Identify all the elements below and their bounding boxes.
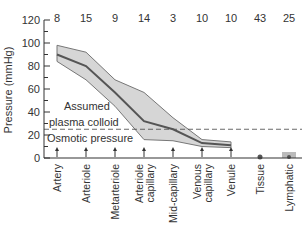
y-tick-label: 120 <box>22 14 40 26</box>
top-count-labels: 815914310104325 <box>54 12 295 24</box>
y-tick-label: 0 <box>34 152 40 164</box>
up-arrow-icon <box>55 147 59 151</box>
up-arrow-icon <box>200 147 204 151</box>
top-count-label: 9 <box>112 12 118 24</box>
svg-text:Mid-capillary: Mid-capillary <box>167 163 179 223</box>
annotation-osmotic-pressure: Osmotic pressure <box>47 132 133 144</box>
category-labels: ArteryArterioleMetarterioleArteriolecapi… <box>51 163 295 223</box>
category-label: Venule <box>225 164 237 196</box>
category-label: Arteriolecapillary <box>133 163 156 203</box>
pressure-chart: 020406080100120 815914310104325 ArteryAr… <box>0 0 306 236</box>
svg-text:Metarteriole: Metarteriole <box>109 164 121 220</box>
svg-text:Tissue: Tissue <box>254 164 266 195</box>
annotation-assumed: Assumed <box>64 100 110 112</box>
top-count-label: 25 <box>283 12 295 24</box>
top-count-label: 43 <box>254 12 266 24</box>
top-count-label: 15 <box>80 12 92 24</box>
svg-text:capillary: capillary <box>202 163 214 202</box>
annotation-plasma-colloid: plasma colloid <box>49 116 119 128</box>
svg-text:Venule: Venule <box>225 164 237 196</box>
category-label: Artery <box>51 163 63 192</box>
category-label: Arteriole <box>80 164 92 203</box>
chart-svg: 020406080100120 815914310104325 ArteryAr… <box>0 0 306 236</box>
tissue-marker <box>258 155 263 160</box>
y-tick-label: 80 <box>28 60 40 72</box>
up-arrow-icon <box>142 147 146 151</box>
y-tick-label: 60 <box>28 83 40 95</box>
category-label: Mid-capillary <box>167 163 179 223</box>
y-axis-label: Pressure (mmHg) <box>2 47 14 134</box>
y-tick-label: 40 <box>28 106 40 118</box>
top-count-label: 8 <box>54 12 60 24</box>
up-arrow-icon <box>84 147 88 151</box>
svg-text:Artery: Artery <box>51 163 63 192</box>
top-count-label: 14 <box>138 12 150 24</box>
y-tick-label: 100 <box>22 37 40 49</box>
category-label: Tissue <box>254 164 266 195</box>
svg-text:Arteriole: Arteriole <box>80 164 92 203</box>
category-label: Metarteriole <box>109 164 121 220</box>
category-label: Venouscapillary <box>191 163 214 202</box>
svg-text:Lymphatic: Lymphatic <box>283 164 295 211</box>
up-arrow-icon <box>171 147 175 151</box>
top-count-label: 10 <box>225 12 237 24</box>
y-axis: 020406080100120 <box>22 14 50 164</box>
x-axis <box>44 147 302 158</box>
top-count-label: 10 <box>196 12 208 24</box>
y-tick-label: 20 <box>28 129 40 141</box>
top-count-label: 3 <box>170 12 176 24</box>
svg-text:capillary: capillary <box>144 163 156 202</box>
category-label: Lymphatic <box>283 164 295 211</box>
up-arrow-icon <box>113 147 117 151</box>
